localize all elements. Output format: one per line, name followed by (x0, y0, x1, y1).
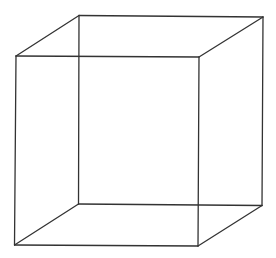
edge-back-bottom-left-to-back-top-left (79, 16, 80, 205)
necker-cube-diagram (0, 0, 276, 258)
background (0, 0, 276, 258)
